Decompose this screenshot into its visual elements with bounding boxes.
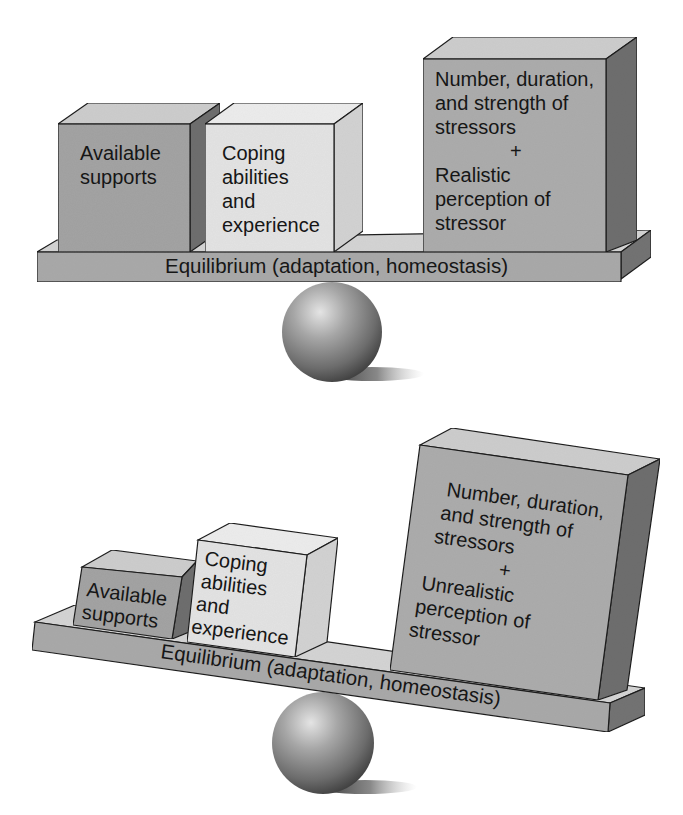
fulcrum-sphere xyxy=(272,692,374,794)
stress-balance-figure: Equilibrium (adaptation, homeostasis) Av… xyxy=(0,0,683,815)
plus-sign: + xyxy=(498,558,513,581)
imbalanced-panel: Equilibrium (adaptation, homeostasis) Av… xyxy=(32,428,660,794)
stressor-box xyxy=(390,428,660,700)
plank-label: Equilibrium (adaptation, homeostasis) xyxy=(165,254,508,277)
plus-sign: + xyxy=(510,140,522,162)
coping-box-side xyxy=(334,103,363,252)
fulcrum-sphere xyxy=(282,282,382,382)
stressor-box-top xyxy=(423,37,637,59)
balanced-panel: Equilibrium (adaptation, homeostasis) Av… xyxy=(37,37,651,382)
stressor-box-side xyxy=(606,37,637,252)
